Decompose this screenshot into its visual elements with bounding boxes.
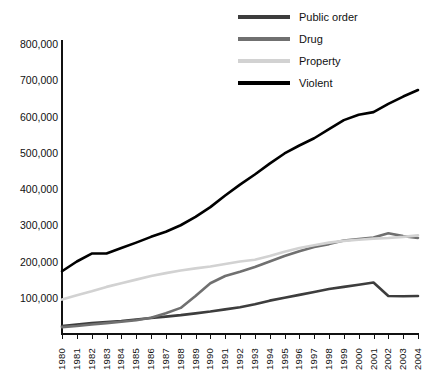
y-tick-label: 600,000 (0, 112, 58, 122)
y-tick-label: 700,000 (0, 75, 58, 85)
x-tick-label: 2003 (398, 348, 407, 370)
y-tick-label: 100,000 (0, 293, 58, 303)
x-tick-mark (196, 335, 197, 339)
x-axis-labels: 1980198119821983198419851986198719881989… (62, 336, 418, 370)
x-tick-label: 1987 (161, 348, 170, 370)
x-tick-mark (92, 335, 93, 339)
x-tick-label: 1989 (191, 348, 200, 370)
x-tick-label: 2004 (413, 348, 422, 370)
x-tick-mark (240, 335, 241, 339)
x-tick-mark (285, 335, 286, 339)
x-tick-label: 1991 (220, 348, 229, 370)
x-tick-label: 1984 (116, 348, 125, 370)
x-tick-mark (181, 335, 182, 339)
x-tick-mark (136, 335, 137, 339)
legend-label-public-order: Public order (299, 12, 358, 23)
y-tick-label: 200,000 (0, 257, 58, 267)
x-tick-mark (344, 335, 345, 339)
x-tick-label: 1998 (324, 348, 333, 370)
x-tick-label: 1986 (146, 348, 155, 370)
x-tick-mark (166, 335, 167, 339)
x-tick-label: 2000 (354, 348, 363, 370)
x-tick-mark (77, 335, 78, 339)
y-axis-line (61, 40, 63, 334)
x-tick-mark (299, 335, 300, 339)
x-tick-mark (359, 335, 360, 339)
x-tick-label: 1985 (131, 348, 140, 370)
x-tick-mark (403, 335, 404, 339)
x-tick-label: 1999 (339, 348, 348, 370)
legend-item-property[interactable]: Property (238, 52, 428, 70)
x-tick-mark (270, 335, 271, 339)
x-tick-label: 1992 (235, 348, 244, 370)
x-tick-label: 1990 (205, 348, 214, 370)
y-tick-label: 300,000 (0, 220, 58, 230)
series-line-public-order (62, 283, 418, 327)
x-tick-mark (374, 335, 375, 339)
legend-item-public-order[interactable]: Public order (238, 8, 428, 26)
x-tick-mark (62, 335, 63, 339)
x-tick-label: 1981 (72, 348, 81, 370)
x-tick-label: 1996 (294, 348, 303, 370)
x-tick-label: 1997 (309, 348, 318, 370)
x-tick-label: 2001 (369, 348, 378, 370)
y-tick-label: 500,000 (0, 148, 58, 158)
x-tick-mark (329, 335, 330, 339)
x-tick-mark (255, 335, 256, 339)
x-tick-label: 1988 (176, 348, 185, 370)
x-tick-mark (388, 335, 389, 339)
legend-item-drug[interactable]: Drug (238, 30, 428, 48)
y-tick-label: 800,000 (0, 39, 58, 49)
x-tick-mark (107, 335, 108, 339)
x-tick-label: 1980 (57, 348, 66, 370)
legend-label-violent: Violent (299, 78, 332, 89)
legend-swatch-public-order (238, 15, 290, 19)
x-tick-label: 2002 (383, 348, 392, 370)
legend-label-drug: Drug (299, 34, 323, 45)
x-tick-label: 1983 (102, 348, 111, 370)
y-tick-label: 400,000 (0, 184, 58, 194)
legend-swatch-violent (238, 81, 290, 85)
x-tick-mark (210, 335, 211, 339)
series-lines (62, 90, 418, 327)
legend-swatch-drug (238, 37, 290, 41)
series-line-property (62, 235, 418, 299)
x-tick-label: 1993 (250, 348, 259, 370)
line-chart: Public order Drug Property Violent 100,0… (0, 0, 436, 370)
legend-label-property: Property (299, 56, 341, 67)
x-tick-mark (418, 335, 419, 339)
legend-item-violent[interactable]: Violent (238, 74, 428, 92)
legend-swatch-property (238, 59, 290, 63)
x-tick-label: 1982 (87, 348, 96, 370)
series-line-drug (62, 233, 418, 327)
x-tick-mark (121, 335, 122, 339)
series-line-violent (62, 90, 418, 271)
x-tick-mark (151, 335, 152, 339)
y-axis-labels: 100,000200,000300,000400,000500,000600,0… (0, 0, 58, 370)
x-tick-mark (225, 335, 226, 339)
x-tick-label: 1995 (280, 348, 289, 370)
chart-legend: Public order Drug Property Violent (238, 8, 428, 96)
x-tick-mark (314, 335, 315, 339)
x-tick-label: 1994 (265, 348, 274, 370)
